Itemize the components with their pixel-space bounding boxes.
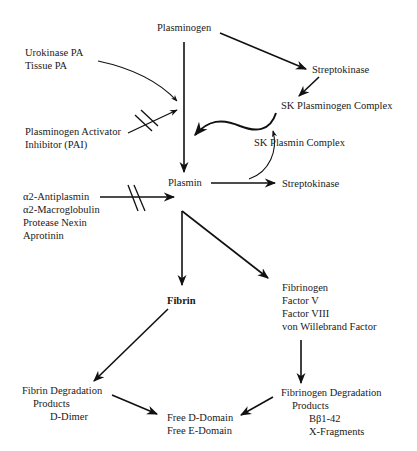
free-d-domain: Free D-Domain (167, 411, 233, 424)
free-e-domain: Free E-Domain (167, 424, 233, 437)
substrate-fibrinogen: Fibrinogen (282, 281, 376, 294)
activator-tissue-pa: Tissue PA (25, 59, 83, 72)
fgdp-line-2: Products (281, 399, 382, 412)
arrow-plasminogen-to-streptokinase (220, 33, 306, 69)
arrow-sk-plasminogen-complex-to-plasmin (195, 113, 276, 135)
arrow-streptokinase-to-sk-plasminogen-complex (299, 77, 319, 96)
fdp-d-dimer: D-Dimer (22, 410, 102, 423)
activator-urokinase-pa: Urokinase PA (25, 46, 83, 59)
substrate-von-willebrand-factor: von Willebrand Factor (282, 320, 376, 333)
inhibition-mark-inhibitors-1 (128, 185, 138, 211)
pai-line-2: Inhibitor (PAI) (25, 138, 121, 151)
node-streptokinase-right: Streptokinase (282, 177, 339, 190)
substrate-factor-v: Factor V (282, 294, 376, 307)
node-substrates: Fibrinogen Factor V Factor VIII von Will… (282, 281, 376, 333)
node-fibrin: Fibrin (167, 294, 196, 307)
substrate-factor-viii: Factor VIII (282, 307, 376, 320)
inhibitor-alpha2-macroglobulin: α2-Macroglobulin (23, 203, 100, 216)
node-plasmin: Plasmin (168, 176, 202, 189)
inhibition-mark-inhibitors-2 (134, 185, 145, 211)
arrow-plasmin-to-substrates (182, 211, 268, 278)
pai-line-1: Plasminogen Activator (25, 125, 121, 138)
node-free-domains: Free D-Domain Free E-Domain (167, 411, 233, 437)
node-inhibitors: α2-Antiplasmin α2-Macroglobulin Protease… (23, 190, 100, 242)
fgdp-bbeta1-42: Bβ1-42 (281, 412, 382, 425)
arrow-fibrin-to-fdp (94, 309, 168, 381)
node-plasminogen: Plasminogen (157, 21, 211, 34)
fdp-line-2: Products (22, 397, 102, 410)
node-pai: Plasminogen Activator Inhibitor (PAI) (25, 125, 121, 151)
inhibitor-alpha2-antiplasmin: α2-Antiplasmin (23, 190, 100, 203)
arrow-fgdp-to-free-domains (241, 397, 273, 415)
node-streptokinase-top: Streptokinase (312, 63, 369, 76)
fgdp-line-1: Fibrinogen Degradation (281, 386, 382, 399)
node-activators: Urokinase PA Tissue PA (25, 46, 83, 72)
node-sk-plasmin-complex: SK Plasmin Complex (254, 136, 345, 149)
arrow-fdp-to-free-domains (112, 395, 157, 414)
node-sk-plasminogen-complex: SK Plasminogen Complex (281, 99, 392, 112)
fdp-line-1: Fibrin Degradation (22, 384, 102, 397)
arrow-activators-to-plasmin (98, 61, 177, 101)
node-fgdp: Fibrinogen Degradation Products Bβ1-42 X… (281, 386, 382, 438)
inhibitor-protease-nexin: Protease Nexin (23, 216, 100, 229)
fgdp-x-fragments: X-Fragments (281, 425, 382, 438)
node-fdp: Fibrin Degradation Products D-Dimer (22, 384, 102, 423)
inhibitor-aprotinin: Aprotinin (23, 229, 100, 242)
